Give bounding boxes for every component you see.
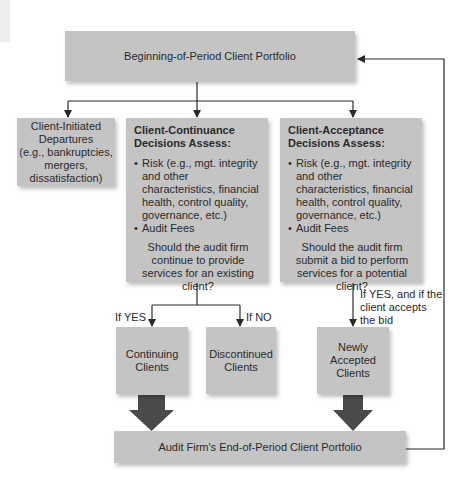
departures-line: Departures — [39, 133, 93, 146]
end-of-period-portfolio-label: Audit Firm's End-of-Period Client Portfo… — [158, 441, 361, 454]
departures-line: (e.g., bankruptcies, — [19, 146, 113, 159]
end-of-period-portfolio-box: Audit Firm's End-of-Period Client Portfo… — [114, 431, 406, 463]
continuance-bullets: Risk (e.g., mgt. integrity and other cha… — [134, 157, 262, 235]
continuing-clients-box: Continuing Clients — [116, 327, 188, 394]
acceptance-bullets: Risk (e.g., mgt. integrity and other cha… — [288, 157, 416, 235]
if-yes-accepts-label: If YES, and if the client accepts the bi… — [360, 288, 444, 327]
continuance-heading: Client-Continuance — [134, 124, 262, 137]
client-acceptance-box: Client-Acceptance Decisions Assess: Risk… — [280, 118, 422, 282]
client-initiated-departures-box: Client-Initiated Departures (e.g., bankr… — [17, 118, 115, 186]
departures-line: Client-Initiated — [31, 120, 101, 133]
bullet-risk: Risk (e.g., mgt. integrity and other cha… — [134, 157, 262, 222]
discontinued-clients-label: Discontinued Clients — [206, 348, 276, 374]
newly-accepted-clients-box: Newly Accepted Clients — [317, 327, 389, 394]
departures-line: dissatisfaction) — [30, 172, 103, 185]
acceptance-heading: Decisions Assess: — [288, 137, 416, 150]
continuance-question: Should the audit firm continue to provid… — [134, 241, 262, 293]
client-continuance-box: Client-Continuance Decisions Assess: Ris… — [126, 118, 268, 282]
discontinued-clients-box: Discontinued Clients — [206, 327, 276, 394]
beginning-portfolio-label: Beginning-of-Period Client Portfolio — [124, 50, 296, 63]
bullet-risk: Risk (e.g., mgt. integrity and other cha… — [288, 157, 416, 222]
fat-arrow-newly-accepted — [333, 395, 373, 431]
departures-line: mergers, — [44, 159, 87, 172]
continuing-clients-label: Continuing Clients — [116, 348, 188, 374]
bullet-audit-fees: Audit Fees — [288, 222, 416, 235]
if-yes-label: If YES — [115, 311, 146, 324]
newly-accepted-clients-label: Newly Accepted Clients — [317, 341, 389, 380]
fat-arrow-continuing — [129, 395, 174, 431]
acceptance-heading: Client-Acceptance — [288, 124, 416, 137]
beginning-portfolio-box: Beginning-of-Period Client Portfolio — [65, 31, 355, 81]
acceptance-question: Should the audit firm submit a bid to pe… — [288, 241, 416, 293]
if-no-label: If NO — [246, 311, 272, 324]
continuance-heading: Decisions Assess: — [134, 137, 262, 150]
bullet-audit-fees: Audit Fees — [134, 222, 262, 235]
